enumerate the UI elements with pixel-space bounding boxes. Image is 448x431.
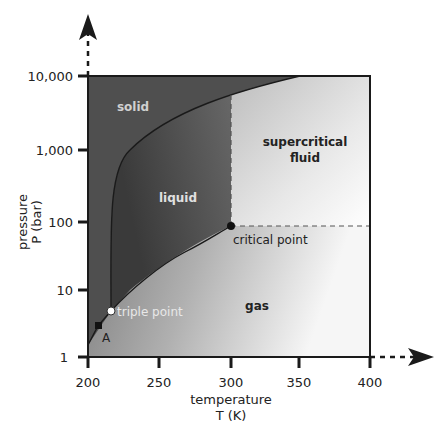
- label-solid: solid: [117, 100, 149, 114]
- critical-point-marker: [227, 222, 235, 230]
- point-a-marker: [95, 322, 102, 329]
- y-tick-10: 10: [56, 283, 73, 298]
- x-axis: [88, 357, 370, 368]
- y-axis-label-line1: pressure: [15, 194, 30, 250]
- y-axis-arrow-icon: [79, 14, 97, 40]
- y-tick-1000: 1,000: [36, 143, 73, 158]
- x-tick-250: 250: [147, 375, 172, 390]
- label-fluid: fluid: [290, 151, 320, 165]
- y-tick-1: 1: [60, 350, 68, 365]
- x-tick-350: 350: [287, 375, 312, 390]
- y-tick-100: 100: [48, 215, 73, 230]
- triple-point-marker: [107, 307, 115, 315]
- x-axis-label-line1: temperature: [190, 392, 272, 407]
- label-gas: gas: [245, 299, 269, 313]
- label-liquid: liquid: [159, 191, 197, 205]
- point-a-label: A: [102, 331, 111, 345]
- y-axis: [78, 76, 88, 357]
- x-tick-400: 400: [358, 375, 383, 390]
- phase-diagram: 10,000 1,000 100 10 1 200 250 300 350 40…: [0, 0, 448, 431]
- x-axis-label-line2: T (K): [215, 408, 247, 423]
- critical-point-label: critical point: [233, 233, 308, 247]
- x-tick-300: 300: [219, 375, 244, 390]
- y-axis-label-line2: P (bar): [29, 200, 44, 244]
- x-tick-200: 200: [76, 375, 101, 390]
- label-supercritical: supercritical: [263, 135, 348, 149]
- triple-point-label: triple point: [117, 305, 183, 319]
- y-tick-10000: 10,000: [28, 69, 74, 84]
